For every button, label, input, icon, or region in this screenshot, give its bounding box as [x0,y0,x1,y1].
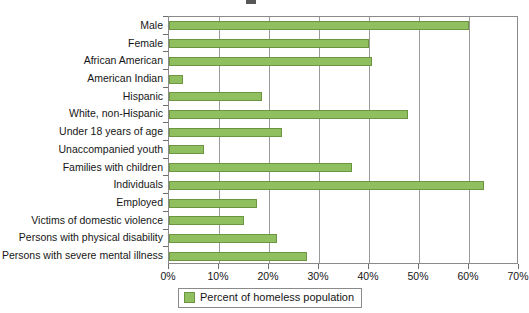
category-tick-mark [163,34,168,35]
x-tick-label: 20% [257,270,278,282]
category-tick-mark [163,175,168,176]
x-tick-label: 40% [357,270,378,282]
category-tick-mark [163,193,168,194]
category-tick-mark [163,229,168,230]
category-axis-labels: MaleFemaleAfrican AmericanAmerican India… [0,16,523,264]
category-label: Victims of domestic violence [0,214,163,226]
cropped-title-remnant [246,0,256,4]
x-axis-ticks: 0%10%20%30%40%50%60%70% [168,264,518,286]
x-tick-mark [468,264,469,269]
x-tick-label: 10% [207,270,228,282]
category-tick-mark [163,87,168,88]
chart-legend: Percent of homeless population [178,288,362,308]
x-tick-mark [418,264,419,269]
x-tick-mark [218,264,219,269]
category-tick-mark [163,158,168,159]
x-tick-mark [168,264,169,269]
category-label: Hispanic [0,90,163,102]
category-tick-mark [163,16,168,17]
x-tick-mark [368,264,369,269]
category-tick-mark [163,140,168,141]
category-tick-mark [163,51,168,52]
category-label: Persons with physical disability [0,231,163,243]
x-tick-label: 0% [160,270,175,282]
category-tick-mark [163,69,168,70]
legend-label: Percent of homeless population [200,291,354,304]
category-label: Female [0,37,163,49]
x-tick-mark [318,264,319,269]
x-tick-label: 70% [507,270,528,282]
category-tick-mark [163,246,168,247]
x-tick-label: 60% [457,270,478,282]
category-tick-mark [163,122,168,123]
category-tick-mark [163,105,168,106]
category-label: Male [0,19,163,31]
category-label: Unaccompanied youth [0,143,163,155]
x-tick-label: 30% [307,270,328,282]
x-tick-mark [518,264,519,269]
category-label: White, non-Hispanic [0,107,163,119]
category-label: Employed [0,196,163,208]
legend-swatch-icon [184,292,195,303]
category-label: American Indian [0,72,163,84]
x-tick-label: 50% [407,270,428,282]
x-tick-mark [268,264,269,269]
category-label: Persons with severe mental illness [0,249,163,261]
category-label: Families with children [0,161,163,173]
category-label: Under 18 years of age [0,125,163,137]
category-tick-mark [163,211,168,212]
category-label: Individuals [0,178,163,190]
category-label: African American [0,54,163,66]
